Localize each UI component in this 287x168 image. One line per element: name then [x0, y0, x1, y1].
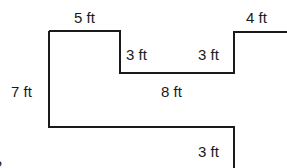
label-notch-left: 3 ft	[126, 47, 147, 62]
label-bottom-right: 3 ft	[198, 144, 219, 159]
label-left: 7 ft	[11, 84, 32, 99]
label-top-right: 4 ft	[246, 10, 267, 25]
label-top-left: 5 ft	[74, 10, 95, 25]
upper-outline	[49, 31, 287, 73]
label-notch-right: 3 ft	[198, 47, 219, 62]
label-middle: 8 ft	[161, 84, 182, 99]
floor-plan-outline	[0, 0, 287, 168]
label-corner-fragment: 2	[0, 158, 2, 168]
